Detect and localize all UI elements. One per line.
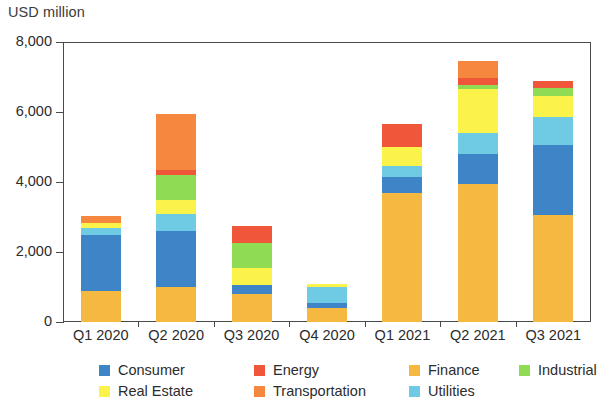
bar-stack	[307, 284, 347, 322]
bar-segment[interactable]	[382, 124, 422, 147]
bar-segment[interactable]	[156, 175, 196, 200]
bar-segment[interactable]	[81, 291, 121, 323]
legend-item[interactable]: Real Estate	[99, 384, 193, 399]
legend-item[interactable]: Industrial	[519, 363, 597, 378]
bar-segment[interactable]	[156, 231, 196, 287]
bar-group[interactable]	[533, 42, 573, 322]
bar-segment[interactable]	[533, 215, 573, 322]
bar-segment[interactable]	[81, 216, 121, 223]
y-axis-title: USD million	[8, 4, 85, 20]
bar-stack	[533, 81, 573, 323]
bar-group[interactable]	[458, 42, 498, 322]
y-axis-tick-label: 6,000	[0, 103, 52, 119]
legend-label: Finance	[428, 363, 480, 378]
legend-item[interactable]: Energy	[254, 363, 319, 378]
legend-color-swatch	[409, 365, 420, 376]
bar-segment[interactable]	[533, 117, 573, 145]
legend-item[interactable]: Finance	[409, 363, 480, 378]
bar-segment[interactable]	[156, 114, 196, 170]
bar-segment[interactable]	[232, 243, 272, 268]
y-axis-tick-mark	[56, 322, 64, 323]
legend-item[interactable]: Utilities	[409, 384, 475, 399]
legend-item[interactable]: Consumer	[99, 363, 185, 378]
bar-segment[interactable]	[382, 166, 422, 177]
bar-segment[interactable]	[307, 308, 347, 322]
bar-segment[interactable]	[533, 88, 573, 97]
legend-color-swatch	[254, 386, 265, 397]
bar-group[interactable]	[382, 42, 422, 322]
bar-segment[interactable]	[156, 214, 196, 232]
bar-segment[interactable]	[458, 133, 498, 154]
bar-segment[interactable]	[458, 61, 498, 79]
x-axis-tick-label: Q1 2020	[73, 327, 129, 343]
legend-label: Industrial	[538, 363, 597, 378]
y-axis-tick-label: 4,000	[0, 173, 52, 189]
bars-layer	[63, 42, 591, 322]
bar-segment[interactable]	[458, 154, 498, 184]
y-axis-tick-label: 2,000	[0, 243, 52, 259]
y-axis-tick-label: 8,000	[0, 33, 52, 49]
bar-group[interactable]	[232, 42, 272, 322]
bar-segment[interactable]	[81, 228, 121, 235]
bar-group[interactable]	[307, 42, 347, 322]
x-axis-tick-label: Q2 2021	[450, 327, 506, 343]
x-axis-tick-label: Q4 2020	[299, 327, 355, 343]
bar-segment[interactable]	[156, 200, 196, 214]
x-axis-tick-mark	[214, 322, 215, 327]
bar-stack	[382, 124, 422, 322]
legend-label: Consumer	[118, 363, 185, 378]
bar-segment[interactable]	[458, 89, 498, 133]
bar-segment[interactable]	[307, 287, 347, 303]
legend-color-swatch	[99, 386, 110, 397]
bar-segment[interactable]	[232, 226, 272, 244]
legend-color-swatch	[254, 365, 265, 376]
x-axis-tick-mark	[365, 322, 366, 327]
x-axis-tick-label: Q1 2021	[375, 327, 431, 343]
bar-segment[interactable]	[232, 268, 272, 286]
bar-segment[interactable]	[232, 294, 272, 322]
bar-segment[interactable]	[232, 285, 272, 294]
bar-segment[interactable]	[156, 287, 196, 322]
bar-stack	[458, 61, 498, 322]
x-axis-tick-label: Q3 2020	[224, 327, 280, 343]
bar-segment[interactable]	[382, 193, 422, 323]
legend-color-swatch	[99, 365, 110, 376]
x-axis-tick-label: Q3 2021	[525, 327, 581, 343]
legend-color-swatch	[409, 386, 420, 397]
bar-segment[interactable]	[533, 145, 573, 215]
bar-group[interactable]	[81, 42, 121, 322]
bar-segment[interactable]	[533, 96, 573, 117]
legend-color-swatch	[519, 365, 530, 376]
legend-label: Real Estate	[118, 384, 193, 399]
bar-segment[interactable]	[382, 177, 422, 193]
legend-label: Utilities	[428, 384, 475, 399]
legend-label: Energy	[273, 363, 319, 378]
x-axis-tick-mark	[138, 322, 139, 327]
chart-container: USD million 02,0004,0006,0008,000 Q1 202…	[0, 0, 601, 404]
bar-segment[interactable]	[533, 81, 573, 88]
bar-segment[interactable]	[458, 78, 498, 85]
x-axis-tick-label: Q2 2020	[148, 327, 204, 343]
legend-item[interactable]: Transportation	[254, 384, 366, 399]
chart-legend: ConsumerEnergyFinanceIndustrialReal Esta…	[99, 363, 594, 403]
bar-stack	[232, 226, 272, 322]
x-axis-tick-mark	[289, 322, 290, 327]
bar-segment[interactable]	[382, 147, 422, 166]
bar-group[interactable]	[156, 42, 196, 322]
bar-stack	[81, 216, 121, 322]
x-axis-tick-mark	[440, 322, 441, 327]
y-axis-tick-label: 0	[0, 313, 52, 329]
legend-label: Transportation	[273, 384, 366, 399]
x-axis-tick-mark	[516, 322, 517, 327]
bar-stack	[156, 114, 196, 322]
bar-segment[interactable]	[81, 235, 121, 291]
bar-segment[interactable]	[458, 184, 498, 322]
